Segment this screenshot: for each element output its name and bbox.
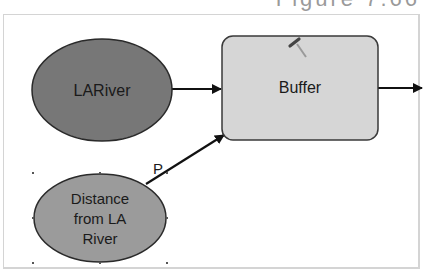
node-distance-label-line2: from LA: [74, 210, 127, 227]
node-buffer-label: Buffer: [279, 79, 322, 96]
node-distance-parameter[interactable]: Distance from LA River: [34, 174, 166, 262]
model-diagram: P LARiver Distance from LA River Buffer: [0, 0, 426, 272]
node-distance-label-line3: River: [82, 230, 117, 247]
node-lariver[interactable]: LARiver: [32, 39, 172, 141]
node-lariver-label: LARiver: [74, 82, 132, 99]
parameter-label-p: P: [153, 160, 163, 177]
node-buffer-tool[interactable]: Buffer: [222, 36, 378, 140]
node-distance-label-line1: Distance: [71, 190, 129, 207]
